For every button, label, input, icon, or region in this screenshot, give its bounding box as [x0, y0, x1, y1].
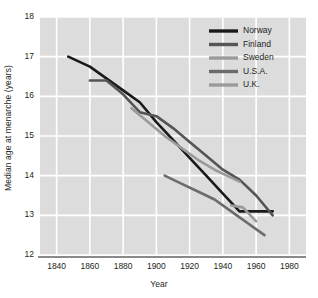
legend-label-sweden: Sweden — [243, 52, 274, 62]
legend-label-usa: U.S.A. — [243, 66, 268, 76]
x-tick-label: 1920 — [173, 261, 207, 271]
x-axis-title: Year — [0, 279, 318, 289]
legend-label-norway: Norway — [243, 25, 272, 35]
legend-label-uk: U.K. — [243, 79, 260, 89]
chart-container: Median age at menarche (years) Year 1213… — [0, 0, 318, 298]
y-tick-label: 12 — [14, 249, 34, 259]
x-tick-label: 1940 — [206, 261, 240, 271]
y-tick-label: 16 — [14, 90, 34, 100]
y-axis-title-text: Median age at menarche (years) — [3, 65, 13, 191]
x-tick-label: 1860 — [73, 261, 107, 271]
y-tick-label: 17 — [14, 51, 34, 61]
x-tick-label: 1980 — [272, 261, 306, 271]
x-tick-label: 1880 — [106, 261, 140, 271]
y-tick-label: 14 — [14, 170, 34, 180]
x-tick-label: 1840 — [40, 261, 74, 271]
x-tick-label: 1960 — [239, 261, 273, 271]
y-tick-label: 18 — [14, 11, 34, 21]
y-tick-label: 15 — [14, 130, 34, 140]
x-tick-label: 1900 — [139, 261, 173, 271]
legend-label-finland: Finland — [243, 39, 271, 49]
y-tick-label: 13 — [14, 209, 34, 219]
